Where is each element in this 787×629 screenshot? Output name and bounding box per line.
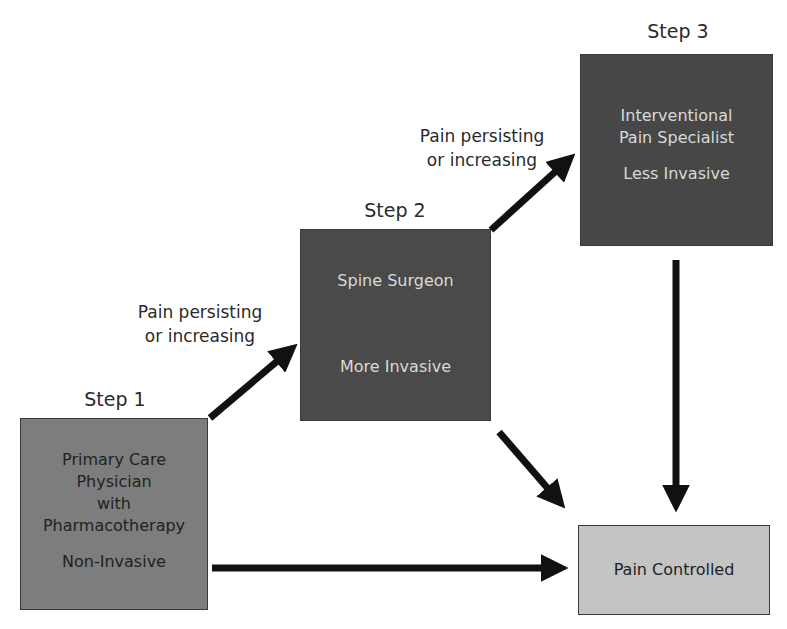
pain-controlled-box: Pain Controlled <box>578 525 770 615</box>
pain-controlled-label: Pain Controlled <box>614 559 735 581</box>
step1-label: Step 1 <box>15 388 215 410</box>
step2-box: Spine Surgeon More Invasive <box>300 229 491 421</box>
step1-line-2: Physician <box>76 471 151 493</box>
edge-label-step2-step3: Pain persisting or increasing <box>402 124 562 172</box>
step1-line-3: with <box>97 493 131 515</box>
arrow-step2-to-outcome <box>499 432 557 499</box>
step1-invasiveness: Non-Invasive <box>62 551 166 573</box>
step1-line-4: Pharmacotherapy <box>43 515 185 537</box>
step3-invasiveness: Less Invasive <box>623 163 729 185</box>
step3-line-2: Pain Specialist <box>619 127 734 149</box>
edge-label-step1-step2: Pain persisting or increasing <box>120 300 280 348</box>
step2-line-1: Spine Surgeon <box>337 270 453 292</box>
step3-box: Interventional Pain Specialist Less Inva… <box>580 54 773 246</box>
step1-box: Primary Care Physician with Pharmacother… <box>20 418 208 610</box>
arrow-step2-to-step3 <box>491 162 566 230</box>
step3-line-1: Interventional <box>621 105 733 127</box>
step2-label: Step 2 <box>295 199 495 221</box>
step1-line-1: Primary Care <box>62 449 166 471</box>
step2-invasiveness: More Invasive <box>340 356 451 378</box>
arrow-step1-to-step2 <box>210 352 288 418</box>
step3-label: Step 3 <box>578 20 778 42</box>
